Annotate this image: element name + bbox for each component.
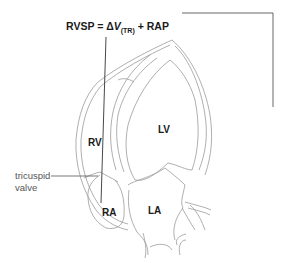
annotation-line-1: tricuspid bbox=[15, 170, 50, 182]
label-lv: LV bbox=[158, 124, 170, 135]
heart-diagram bbox=[0, 0, 287, 263]
rvsp-formula: RVSP = ΔV(TR) + RAP bbox=[66, 20, 169, 34]
formula-rhs: RAP bbox=[147, 20, 169, 32]
tricuspid-leaflets bbox=[84, 172, 118, 182]
formula-delta: Δ bbox=[106, 20, 114, 32]
lv-cavity bbox=[126, 60, 198, 180]
formula-plus: + bbox=[138, 20, 144, 32]
la-chamber bbox=[128, 168, 211, 258]
formula-lhs: RVSP bbox=[66, 20, 94, 32]
corner-bracket bbox=[182, 13, 273, 107]
lv-outer-right bbox=[172, 40, 212, 175]
formula-pointer-line bbox=[101, 37, 106, 203]
lv-outer-right-2 bbox=[175, 46, 206, 170]
rv-inner-wall bbox=[111, 55, 150, 170]
rv-inner-wall-2 bbox=[117, 58, 157, 172]
formula-equals: = bbox=[97, 20, 103, 32]
tricuspid-valve-annotation: tricuspid valve bbox=[15, 170, 50, 194]
formula-velocity: V bbox=[114, 20, 121, 32]
label-la: LA bbox=[148, 205, 161, 216]
formula-subscript: (TR) bbox=[121, 27, 135, 34]
label-rv: RV bbox=[88, 137, 102, 148]
label-ra: RA bbox=[102, 207, 116, 218]
annotation-line-2: valve bbox=[15, 182, 50, 194]
